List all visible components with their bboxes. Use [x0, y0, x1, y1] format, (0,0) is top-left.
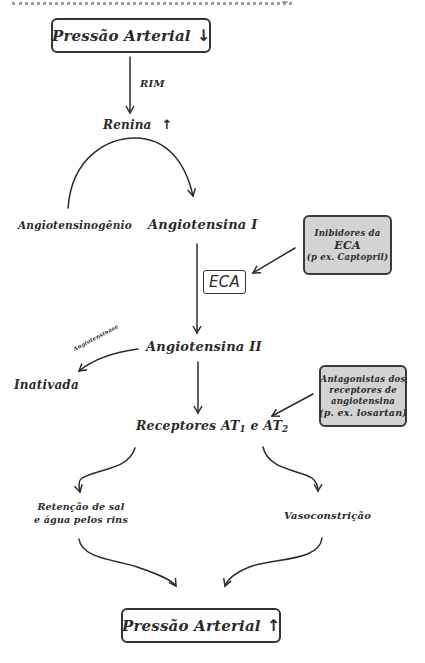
arrow-angiotensina2-to-inativada — [79, 349, 138, 371]
receptores-at-label: Receptores AT1 e AT2 — [136, 418, 288, 434]
connector-layer — [0, 0, 425, 663]
inibidores-eca-box: Inibidores da ECA (p ex. Captopril) — [303, 215, 392, 275]
arrow-down-icon: ↓ — [197, 26, 210, 45]
pressao-arterial-alta-label: Pressão Arterial — [122, 617, 261, 635]
inativada-label: Inativada — [14, 378, 79, 392]
arrow-inibidores-to-eca — [253, 248, 295, 273]
arrow-retencao-to-pressao-alta — [79, 539, 176, 586]
angiotensina-2-label: Angiotensina II — [146, 339, 262, 354]
antagonistas-line2: receptores de — [329, 385, 397, 396]
receptores-sub2: 2 — [282, 424, 288, 434]
inibidores-eca-line1: Inibidores da — [315, 228, 381, 239]
pressao-arterial-baixa-label: Pressão Arterial — [52, 27, 191, 45]
inibidores-eca-line3: (p ex. Captopril) — [307, 252, 388, 263]
pressao-arterial-baixa-box: Pressão Arterial ↓ — [51, 18, 211, 53]
antagonistas-line1: Antagonistas dos — [321, 374, 406, 385]
angiotensinogenio-label: Angiotensinogênio — [18, 219, 132, 231]
antagonistas-line4: (p. ex. losartan) — [319, 407, 407, 418]
renina-label: Renina — [103, 118, 152, 132]
vasoconstricao-label: Vasoconstrição — [284, 510, 371, 521]
retencao-line2: e água pelos rins — [33, 513, 129, 526]
antagonistas-box: Antagonistas dos receptores de angiotens… — [319, 365, 407, 427]
arc-angiotensinogenio-to-angiotensina1 — [68, 138, 193, 208]
receptores-prefix: Receptores AT — [136, 418, 240, 433]
eca-box: ECA — [203, 270, 246, 294]
arrow-up-icon: ↑ — [162, 117, 173, 132]
arrow-receptores-to-retencao — [79, 448, 135, 492]
pressao-arterial-alta-box: Pressão Arterial ↑ — [121, 608, 281, 643]
eca-label: ECA — [209, 273, 240, 291]
rim-label: RIM — [140, 78, 165, 89]
arrow-vasoconstricao-to-pressao-alta — [225, 538, 322, 586]
angiotensina-1-label: Angiotensina I — [148, 217, 258, 232]
antagonistas-line3: angiotensina — [331, 396, 395, 407]
renina-node: Renina ↑ — [103, 117, 173, 132]
retencao-line1: Retenção de sal — [33, 500, 129, 513]
inibidores-eca-line2: ECA — [334, 239, 360, 252]
arrow-receptores-to-vasoconstricao — [263, 447, 318, 491]
retencao-node: Retenção de sal e água pelos rins — [33, 500, 129, 526]
arrow-antagonistas-to-receptores — [272, 394, 313, 416]
arrow-up-icon: ↑ — [267, 616, 280, 635]
receptores-mid: e AT — [246, 418, 282, 433]
